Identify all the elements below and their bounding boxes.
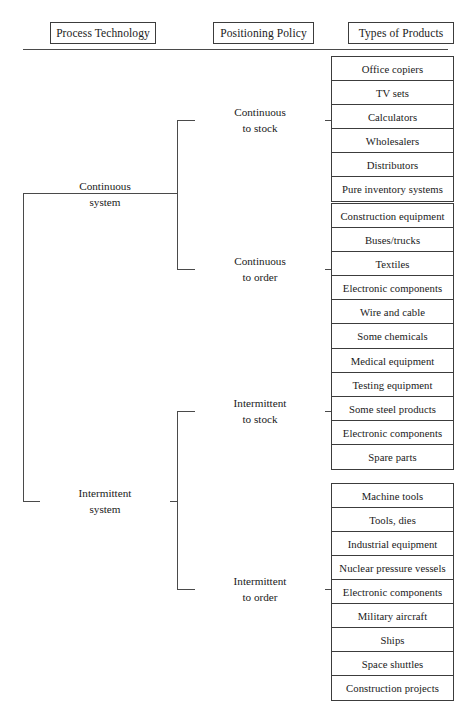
- label-intermittent-system-line1: Intermittent: [44, 486, 166, 500]
- continuous-policy-bracket-spine: [177, 120, 178, 269]
- product-item: Pure inventory systems: [332, 177, 453, 201]
- label-intermittent-to-order-line2: to order: [199, 590, 321, 604]
- product-item: Some chemicals: [332, 324, 453, 348]
- label-intermittent-to-order: Intermittent to order: [195, 589, 325, 617]
- column-header-process-technology: Process Technology: [50, 22, 156, 44]
- column-header-types-of-products: Types of Products: [348, 22, 454, 44]
- label-continuous-to-order-line2: to order: [199, 270, 321, 284]
- product-item: Some steel products: [332, 397, 453, 421]
- product-item: Electronic components: [332, 580, 453, 604]
- product-item: TV sets: [332, 81, 453, 105]
- product-item: Military aircraft: [332, 604, 453, 628]
- product-item: Textiles: [332, 252, 453, 276]
- product-item: Spare parts: [332, 445, 453, 469]
- label-continuous-system: Continuous system: [40, 194, 170, 222]
- label-intermittent-to-stock-line1: Intermittent: [199, 396, 321, 410]
- intermittent-policy-bracket-spine: [177, 411, 178, 589]
- product-group-intermittent-to-order: Machine toolsTools, diesIndustrial equip…: [331, 483, 454, 701]
- product-group-continuous-to-order: Construction equipmentBuses/trucksTextil…: [331, 203, 454, 349]
- product-item: Office copiers: [332, 57, 453, 81]
- product-item: Machine tools: [332, 484, 453, 508]
- product-item: Electronic components: [332, 421, 453, 445]
- product-item: Nuclear pressure vessels: [332, 556, 453, 580]
- product-item: Calculators: [332, 105, 453, 129]
- label-intermittent-to-stock: Intermittent to stock: [195, 411, 325, 439]
- product-item: Construction projects: [332, 676, 453, 700]
- product-item: Industrial equipment: [332, 532, 453, 556]
- label-continuous-to-stock-line1: Continuous: [199, 105, 321, 119]
- label-continuous-to-order-line1: Continuous: [199, 254, 321, 268]
- label-intermittent-system-line2: system: [44, 502, 166, 516]
- product-item: Testing equipment: [332, 373, 453, 397]
- product-item: Space shuttles: [332, 652, 453, 676]
- product-item: Buses/trucks: [332, 228, 453, 252]
- label-continuous-to-stock: Continuous to stock: [195, 120, 325, 148]
- label-intermittent-system: Intermittent system: [40, 501, 170, 529]
- label-intermittent-to-stock-line2: to stock: [199, 412, 321, 426]
- product-item: Wire and cable: [332, 300, 453, 324]
- label-continuous-system-line1: Continuous: [44, 179, 166, 193]
- product-group-continuous-to-stock: Office copiersTV setsCalculatorsWholesal…: [331, 56, 454, 202]
- label-continuous-to-order: Continuous to order: [195, 269, 325, 297]
- process-technology-bracket-spine: [23, 193, 24, 501]
- product-item: Ships: [332, 628, 453, 652]
- product-item: Construction equipment: [332, 204, 453, 228]
- label-continuous-to-stock-line2: to stock: [199, 121, 321, 135]
- label-continuous-system-line2: system: [44, 195, 166, 209]
- product-item: Electronic components: [332, 276, 453, 300]
- product-item: Medical equipment: [332, 349, 453, 373]
- column-header-positioning-policy: Positioning Policy: [213, 22, 314, 44]
- product-item: Wholesalers: [332, 129, 453, 153]
- product-item: Distributors: [332, 153, 453, 177]
- label-intermittent-to-order-line1: Intermittent: [199, 574, 321, 588]
- product-item: Tools, dies: [332, 508, 453, 532]
- product-group-intermittent-to-stock: Medical equipmentTesting equipmentSome s…: [331, 348, 454, 470]
- header-divider-rule: [23, 49, 448, 50]
